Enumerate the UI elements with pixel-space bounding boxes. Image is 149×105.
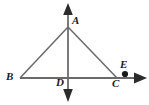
vertex-label-d: D <box>56 77 64 88</box>
point-E-dot <box>122 71 128 77</box>
horizontal-ray-arrow-right-icon <box>134 73 147 84</box>
vertical-line-arrow-down-icon <box>63 89 73 102</box>
geometry-figure: A B C D E <box>0 0 149 105</box>
vertex-label-b: B <box>6 71 13 82</box>
segment-AC <box>68 27 117 78</box>
segment-AB <box>20 27 68 78</box>
vertex-label-c: C <box>112 78 119 89</box>
vertex-label-a: A <box>72 15 79 26</box>
vertex-label-e: E <box>120 59 127 70</box>
